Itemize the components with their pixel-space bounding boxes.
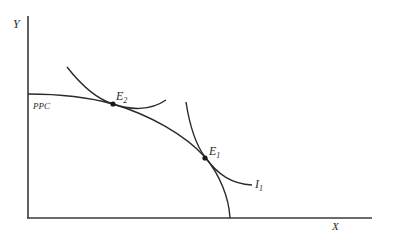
x-axis-label: X [331, 220, 340, 232]
e1-label: E1 [208, 144, 220, 160]
ppc-indifference-diagram: Y X PPC E2 E1 I1 [0, 0, 393, 237]
equilibrium-point-e1 [202, 155, 207, 160]
ppc-curve [28, 94, 230, 218]
y-axis-label: Y [13, 17, 21, 31]
e2-label: E2 [115, 89, 127, 105]
ppc-label: PPC [32, 101, 51, 111]
indifference-curve-i1 [186, 102, 252, 185]
i1-label: I1 [254, 177, 263, 193]
equilibrium-point-e2 [110, 101, 115, 106]
